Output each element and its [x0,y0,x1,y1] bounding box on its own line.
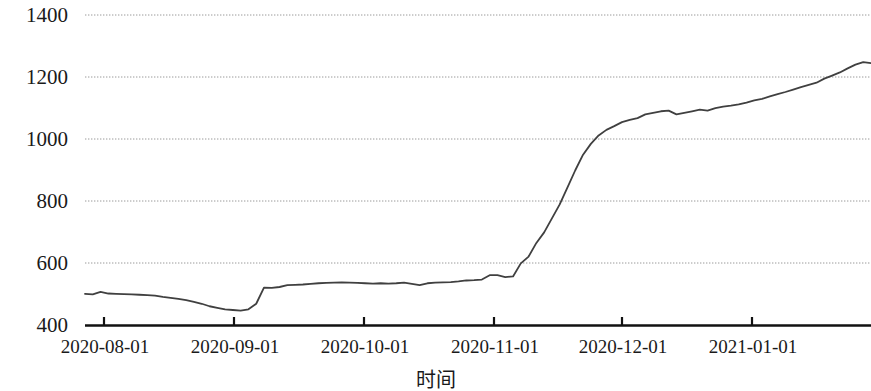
x-tick-label: 2020-09-01 [191,336,280,358]
data-series-line [85,62,871,310]
x-axis-ticks [104,317,752,325]
x-tick-label: 2020-10-01 [321,336,410,358]
plot-area [0,0,871,391]
gridlines [85,15,871,263]
x-axis-title: 时间 [0,364,871,391]
x-tick-label: 2020-08-01 [61,336,150,358]
x-tick-label: 2020-12-01 [579,336,668,358]
x-tick-label: 2020-11-01 [451,336,539,358]
chart-container: 信用利差（基点） 1400 1200 1000 800 600 400 20 [0,0,871,391]
x-tick-label: 2021-01-01 [709,336,798,358]
